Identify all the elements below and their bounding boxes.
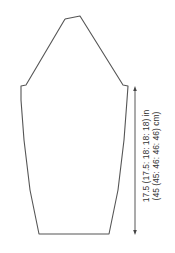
sleeve-outline <box>21 16 128 234</box>
arrow-down-icon <box>133 230 137 235</box>
sleeve-length-label: 17.5 (17.5: 18: 18: 18) in (45 (45: 46: … <box>141 96 161 216</box>
sleeve-length-cm: (45 (45: 46: 46: 46) cm) <box>151 96 161 216</box>
arrow-up-icon <box>133 86 137 91</box>
sleeve-length-in: 17.5 (17.5: 18: 18: 18) in <box>141 96 151 216</box>
